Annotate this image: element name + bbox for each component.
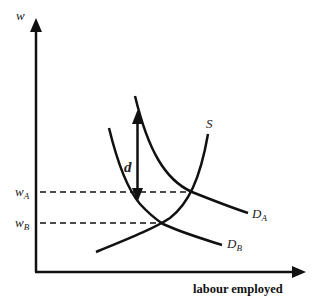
- y-axis: [30, 18, 42, 272]
- gap-double-arrow: [132, 110, 143, 202]
- y-axis-label: w: [16, 8, 25, 23]
- y-axis-arrow-icon: [30, 18, 42, 32]
- x-axis: [35, 266, 306, 278]
- demand-a-label: DA: [251, 206, 267, 223]
- labour-market-diagram: w labour employed wA wB DA DB S d: [0, 0, 321, 306]
- gap-label: d: [124, 159, 132, 175]
- supply-label: S: [206, 116, 213, 131]
- demand-curve-a: [135, 96, 248, 213]
- x-axis-label: labour employed: [193, 282, 283, 296]
- x-axis-arrow-icon: [292, 266, 306, 278]
- demand-b-label: DB: [226, 236, 242, 253]
- wage-a-label: wA: [15, 184, 30, 201]
- wage-b-label: wB: [15, 215, 30, 232]
